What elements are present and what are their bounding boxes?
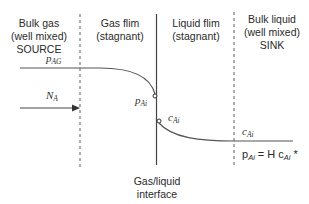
c-ai-bulk-label: cAi (242, 125, 254, 139)
henry-law-equation: pAi = H cAi * (242, 148, 298, 162)
region-gas-film-line2: (stagnant) (86, 30, 154, 43)
region-liquid-film-label: Liquid flim (stagnant) (160, 17, 232, 43)
region-bulk-liquid-line1: Bulk liquid (236, 13, 308, 26)
liquid-concentration-profile (159, 123, 293, 141)
region-bulk-liquid-line3: SINK (236, 39, 308, 52)
region-bulk-gas-line1: Bulk gas (4, 17, 74, 30)
region-gas-film-line1: Gas flim (86, 17, 154, 30)
flux-arrow-head-icon (72, 105, 80, 112)
gas-pressure-profile (20, 68, 155, 94)
p-ag-label: pAG (46, 52, 62, 66)
region-bulk-liquid-label: Bulk liquid (well mixed) SINK (236, 13, 308, 52)
c-ai-interface-label: cAi (168, 111, 180, 125)
equation-lhs-sub: Ai (248, 153, 255, 162)
region-gas-film-label: Gas flim (stagnant) (86, 17, 154, 43)
interface-label-line2: interface (122, 188, 192, 201)
region-bulk-gas-line3: SOURCE (4, 43, 74, 56)
p-ai-point-marker (153, 94, 157, 98)
n-a-label: NA (46, 89, 58, 103)
p-ai-label: pAi (135, 94, 147, 108)
p-ag-sub: AG (52, 57, 62, 66)
c-ai-point-marker (157, 119, 161, 123)
interface-label: Gas/liquid interface (122, 175, 192, 201)
c-ai-interface-sub: Ai (173, 116, 180, 125)
region-liquid-film-line2: (stagnant) (160, 30, 232, 43)
equation-suffix: * (291, 148, 298, 160)
region-bulk-gas-label: Bulk gas (well mixed) SOURCE (4, 17, 74, 56)
equation-middle: = H c (255, 148, 284, 160)
c-ai-bulk-sub: Ai (247, 130, 254, 139)
interface-label-line1: Gas/liquid (122, 175, 192, 188)
region-liquid-film-line1: Liquid flim (160, 17, 232, 30)
equation-rhs-sub: Ai (284, 153, 291, 162)
region-bulk-liquid-line2: (well mixed) (236, 26, 308, 39)
n-a-sub: A (53, 94, 58, 103)
region-bulk-gas-line2: (well mixed) (4, 30, 74, 43)
p-ai-sub: Ai (141, 99, 148, 108)
